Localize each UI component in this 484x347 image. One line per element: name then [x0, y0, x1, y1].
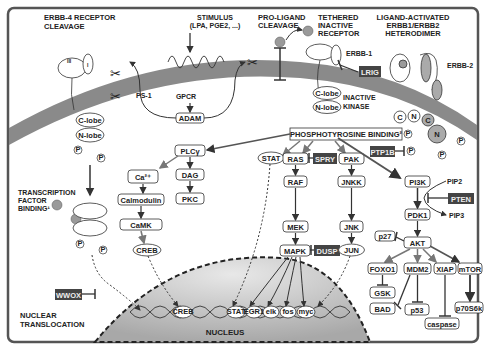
diagram-text: P — [75, 145, 80, 154]
diagram-text: C-lobe — [315, 89, 338, 98]
diagram-text: CREB — [136, 246, 158, 255]
diagram-text: GSK — [374, 289, 391, 298]
scissors-icon: ✂ — [110, 66, 121, 81]
diagram-text: Ca²⁺ — [135, 173, 151, 182]
diagram-text: DAG — [182, 171, 199, 180]
transcription-factor-icon — [52, 200, 62, 210]
diagram-text: JNK — [344, 223, 360, 232]
diagram-text: (LPA, PGE2, ...) — [190, 22, 240, 30]
diagram-text: DUSP — [317, 247, 338, 256]
diagram-text: P — [405, 129, 410, 138]
diagram-text: P — [408, 146, 413, 155]
diagram-text: INACTIVE — [343, 94, 376, 101]
diagram-text: CREB — [172, 307, 194, 316]
diagram-text: JNKK — [341, 178, 362, 187]
diagram-text: p70S6k — [456, 304, 483, 313]
diagram-text: KINASE — [343, 103, 370, 110]
diagram-text: PDK1 — [407, 211, 427, 220]
diagram-shape — [275, 37, 285, 47]
diagram-text: FACTOR — [18, 197, 47, 204]
diagram-text: PHOSPHOTYROSINE BINDING² — [290, 130, 403, 139]
pip2-label: PIP2 — [447, 178, 462, 185]
diagram-text: BINDING¹ — [18, 205, 51, 212]
diagram-text: C — [425, 116, 431, 125]
diagram-text: TRANSLOCATION — [20, 320, 84, 329]
ligand-icon — [303, 26, 313, 36]
diagram-text: BAD — [374, 305, 391, 314]
diagram-text: P — [458, 136, 463, 145]
diagram-text: N — [411, 112, 416, 121]
diagram-text: RAF — [288, 178, 304, 187]
diagram-text: P — [98, 153, 103, 162]
diagram-text: TRANSCRIPTION — [18, 189, 76, 196]
diagram-shape — [390, 54, 410, 82]
erbb4-icd-upper — [73, 203, 107, 219]
diagram-text: p27 — [379, 232, 392, 241]
scissors-icon: ✂ — [110, 89, 121, 104]
diagram-shape — [421, 54, 431, 82]
diagram-text: P — [439, 150, 444, 159]
diagram-text: fos — [282, 307, 293, 316]
diagram-text: FOXO1 — [370, 265, 395, 274]
diagram-text: SPRY — [315, 155, 335, 164]
diagram-text: III — [67, 58, 72, 64]
pip3-label: PIP3 — [449, 212, 464, 219]
diagram-text: myc — [298, 307, 313, 316]
diagram-text: CaMK — [130, 221, 152, 230]
diagram-text: caspase — [427, 320, 457, 329]
diagram-text: N-lobe — [315, 103, 338, 112]
diagram-text: PLCγ — [180, 147, 200, 156]
diagram-text: PTP1B — [370, 148, 395, 157]
diagram-shape — [58, 58, 86, 78]
diagram-text: MAPK — [284, 247, 307, 256]
diagram-text: elk — [266, 307, 277, 316]
diagram-text: STIMULUS — [197, 14, 233, 21]
label-stimulus: STIMULUS (LPA, PGE2, ...) — [190, 14, 240, 30]
diagram-text: EGR1 — [244, 307, 264, 316]
diagram-text: MDM2 — [406, 265, 428, 274]
ps1-label: PS-1 — [136, 92, 152, 99]
diagram-text: N-lobe — [78, 131, 101, 140]
diagram-shape — [306, 44, 334, 60]
diagram-text: AKT — [410, 239, 426, 248]
diagram-shape — [399, 60, 407, 68]
diagram-shape — [432, 80, 442, 100]
diagram-text: mTOR — [459, 265, 482, 274]
diagram-text: Calmodulin — [121, 196, 162, 205]
diagram-text: RAS — [288, 155, 304, 164]
diagram-text: PI3K — [409, 178, 426, 187]
diagram-text: WWOX — [56, 291, 81, 300]
diagram-text: ADAM — [179, 114, 202, 123]
diagram-text: MEK — [287, 223, 304, 232]
erbb1-label: ERBB-1 — [346, 50, 372, 57]
diagram-text: STAT — [262, 154, 281, 163]
scissors-icon: ✂ — [247, 55, 258, 70]
gpcr-label: GPCR — [176, 93, 196, 100]
diagram-text: RECEPTOR — [318, 29, 360, 38]
diagram-text: PKC — [182, 195, 198, 204]
erbb2-label: ERBB-2 — [447, 62, 473, 69]
diagram-text: NUCLEAR — [20, 311, 57, 320]
diagram-text: JUN — [344, 246, 359, 255]
diagram-text: XIAP — [436, 265, 454, 274]
diagram-text: CLEAVAGE — [258, 21, 299, 30]
diagram-text: P — [100, 245, 105, 254]
diagram-text: C — [397, 113, 403, 122]
diagram-text: HETERODIMER — [385, 29, 441, 38]
erbb4-icd-lower — [73, 220, 107, 236]
diagram-text: PAK — [344, 155, 360, 164]
diagram-text: CLEAVAGE — [44, 22, 85, 31]
diagram-text: C-lobe — [78, 116, 101, 125]
diagram-text: PTEN — [451, 195, 471, 204]
diagram-text: LRIG — [361, 68, 379, 77]
nucleus-label: NUCLEUS — [206, 328, 245, 337]
diagram-text: P — [77, 239, 82, 248]
erbb-signaling-diagram: ERBB-4 RECEPTOR CLEAVAGE STIMULUS (LPA, … — [0, 0, 484, 347]
diagram-text: N — [434, 130, 439, 139]
diagram-text: ERBB-4 RECEPTOR — [44, 13, 116, 22]
label-ligand-activated: LIGAND-ACTIVATED ERBB1/ERBB2 HETERODIMER — [376, 13, 450, 38]
diagram-text: p53 — [411, 306, 424, 315]
